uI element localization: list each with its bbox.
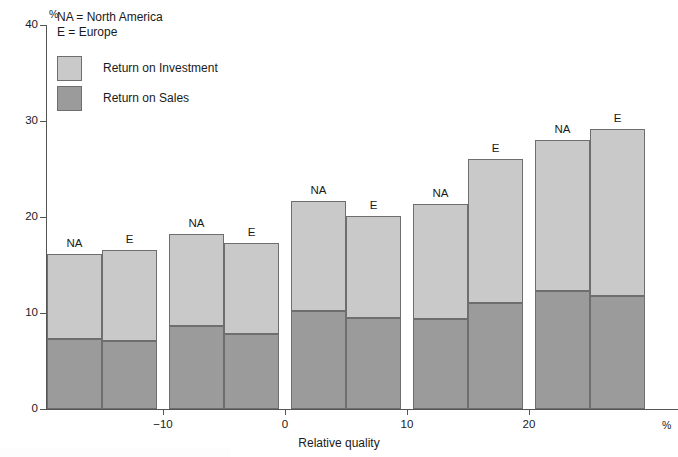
bar[interactable]: E [346,216,401,409]
y-tick-label: 30 [8,115,38,127]
bar[interactable]: NA [291,201,346,409]
bar-region-label: NA [311,185,327,197]
bar-region-label: NA [189,218,205,230]
x-axis-unit-label: % [662,419,671,431]
bar-segment-return-on-investment[interactable] [535,140,590,291]
x-tick-label: 0 [263,419,307,431]
x-tick-mark [163,409,164,415]
y-tick-mark [40,313,46,314]
x-tick-label: −10 [141,419,185,431]
y-tick-mark [40,409,46,410]
bar[interactable]: E [590,129,645,409]
bar-segment-return-on-sales[interactable] [535,291,590,409]
y-tick-mark [40,217,46,218]
bar-region-label: E [370,200,378,212]
bar[interactable]: NA [169,234,224,409]
bar-segment-return-on-sales[interactable] [590,296,645,409]
bar[interactable]: NA [413,204,468,409]
bar-segment-return-on-investment[interactable] [413,204,468,319]
bar-segment-return-on-investment[interactable] [346,216,401,318]
y-tick-label: 20 [8,211,38,223]
bar-segment-return-on-investment[interactable] [468,159,523,303]
bar[interactable]: E [468,159,523,409]
bar-segment-return-on-investment[interactable] [47,254,102,338]
bar-region-label: E [248,227,256,239]
bar-segment-return-on-investment[interactable] [291,201,346,311]
page-edge-artifact [0,448,230,457]
legend-note-e: E = Europe [57,25,218,40]
bar-segment-return-on-sales[interactable] [468,303,523,409]
x-tick-label: 20 [507,419,551,431]
legend-item[interactable]: Return on Investment [57,53,218,83]
y-tick-label: 0 [8,403,38,415]
bar-segment-return-on-investment[interactable] [224,243,279,334]
bar[interactable]: E [102,250,157,409]
bar-region-label: E [126,234,134,246]
legend: NA = North America E = Europe Return on … [57,10,218,113]
bar-segment-return-on-sales[interactable] [224,334,279,409]
x-tick-label: 10 [385,419,429,431]
bar-segment-return-on-investment[interactable] [169,234,224,326]
legend-note-na: NA = North America [57,10,218,25]
y-tick-label: 10 [8,307,38,319]
legend-item-label: Return on Investment [103,61,218,75]
legend-swatch [57,56,82,81]
bar-region-label: E [614,113,622,125]
x-axis-line [40,409,678,410]
bar-segment-return-on-sales[interactable] [413,319,468,409]
y-tick-mark [40,121,46,122]
bar-region-label: NA [433,188,449,200]
x-tick-mark [407,409,408,415]
y-tick-mark [40,25,46,26]
y-tick-label: 40 [8,19,38,31]
bar-segment-return-on-sales[interactable] [169,326,224,409]
bar-segment-return-on-investment[interactable] [102,250,157,341]
legend-swatch [57,86,82,111]
bar[interactable]: NA [535,140,590,409]
stacked-bar-chart: % % Relative quality 403020100 −1001020 … [0,0,678,457]
bar-segment-return-on-sales[interactable] [346,318,401,409]
bar-segment-return-on-investment[interactable] [590,129,645,296]
legend-item[interactable]: Return on Sales [57,83,218,113]
x-tick-mark [529,409,530,415]
bar[interactable]: E [224,243,279,409]
bar-segment-return-on-sales[interactable] [291,311,346,409]
bar-region-label: NA [67,238,83,250]
bar-segment-return-on-sales[interactable] [102,341,157,409]
legend-items: Return on InvestmentReturn on Sales [57,53,218,113]
bar-segment-return-on-sales[interactable] [47,339,102,409]
bar[interactable]: NA [47,254,102,409]
bar-region-label: E [492,143,500,155]
legend-item-label: Return on Sales [103,91,189,105]
x-tick-mark [285,409,286,415]
bar-region-label: NA [555,124,571,136]
